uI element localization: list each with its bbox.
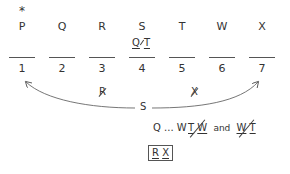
pair-b-left: W bbox=[237, 122, 247, 133]
block-x: X bbox=[162, 147, 169, 158]
rx-block: R X bbox=[148, 145, 173, 161]
connector: and bbox=[213, 123, 230, 133]
sequencing-diagram: * P Q R S T W X QT 1 2 3 4 5 6 7 R X S Q… bbox=[0, 0, 290, 19]
pair-b-right: T bbox=[250, 122, 256, 133]
block-r: R bbox=[152, 147, 159, 158]
rule-ellipsis: ... bbox=[164, 122, 174, 133]
pair-a-right: W bbox=[197, 122, 207, 133]
rule-q: Q bbox=[153, 122, 161, 133]
rule-q-before-w: Q ... W bbox=[153, 122, 187, 133]
pair-a: T W bbox=[188, 122, 207, 133]
pair-a-left: T bbox=[188, 122, 194, 133]
rule-w: W bbox=[177, 122, 187, 133]
arrow-label-s: S bbox=[140, 101, 146, 112]
pair-b: W T bbox=[237, 122, 256, 133]
s-range-arrow bbox=[0, 0, 290, 174]
rule-tw-not-adjacent: T W and W T bbox=[188, 122, 256, 133]
